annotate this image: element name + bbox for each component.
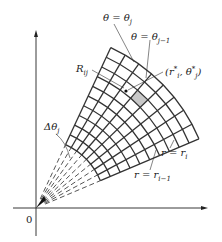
label-origin: 0: [26, 215, 32, 225]
label-r-i: r = ri: [161, 148, 188, 161]
polar-grid-diagram: [0, 0, 222, 242]
shaded-region-rij: [131, 90, 148, 107]
label-region-rij: Rij: [76, 64, 88, 77]
label-r-i-minus-1: r = ri−1: [134, 170, 171, 183]
label-theta-j: θ = θj: [103, 13, 132, 26]
sample-point: [124, 89, 127, 92]
dashed-rays: [40, 145, 100, 205]
label-sample-point: (r*i, θ*j): [165, 66, 201, 80]
label-delta-theta: Δθj: [44, 122, 59, 135]
axes: [13, 30, 208, 236]
label-theta-j-minus-1: θ = θj−1: [131, 32, 170, 45]
y-axis-arrow-icon: [34, 30, 38, 37]
x-axis-arrow-icon: [201, 206, 208, 210]
